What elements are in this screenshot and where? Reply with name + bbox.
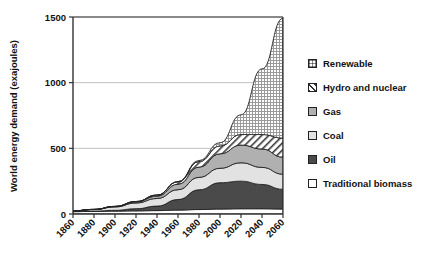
chart-legend: Renewable Hydro and nuclear Gas Coal Oil… xyxy=(308,56,434,200)
area-series-group xyxy=(73,18,283,214)
y-axis-title: World energy demand (exajoules) xyxy=(8,40,19,192)
x-tick-label: 2020 xyxy=(222,217,245,240)
x-axis-ticks: 1860188019001920194019601980200020202040… xyxy=(54,214,287,239)
legend-label-renewable: Renewable xyxy=(323,58,373,69)
legend-swatch-gas xyxy=(308,107,317,116)
x-tick-label: 1960 xyxy=(159,217,182,240)
legend-item-coal[interactable]: Coal xyxy=(308,128,434,142)
y-tick-label: 500 xyxy=(50,143,66,154)
legend-item-renewable[interactable]: Renewable xyxy=(308,56,434,70)
legend-label-hydro-and-nuclear: Hydro and nuclear xyxy=(323,82,406,93)
legend-swatch-oil xyxy=(308,155,317,164)
y-axis-ticks: 050010001500 xyxy=(45,12,73,220)
legend-item-gas[interactable]: Gas xyxy=(308,104,434,118)
x-tick-label: 1860 xyxy=(54,217,77,240)
x-tick-label: 1920 xyxy=(117,217,140,240)
legend-label-coal: Coal xyxy=(323,130,344,141)
legend-swatch-coal xyxy=(308,131,317,140)
legend-swatch-renewable xyxy=(308,59,317,68)
chart-figure: 050010001500 186018801900192019401960198… xyxy=(0,0,434,266)
x-tick-label: 2060 xyxy=(264,217,287,240)
legend-item-traditional-biomass[interactable]: Traditional biomass xyxy=(308,176,434,190)
x-tick-label: 1880 xyxy=(75,217,98,240)
x-tick-label: 1900 xyxy=(96,217,119,240)
legend-item-oil[interactable]: Oil xyxy=(308,152,434,166)
legend-swatch-hydro-and-nuclear xyxy=(308,83,317,92)
legend-label-traditional-biomass: Traditional biomass xyxy=(323,178,412,189)
legend-label-oil: Oil xyxy=(323,154,336,165)
legend-label-gas: Gas xyxy=(323,106,341,117)
legend-swatch-traditional-biomass xyxy=(308,179,317,188)
y-tick-label: 1500 xyxy=(45,12,66,23)
legend-item-hydro-and-nuclear[interactable]: Hydro and nuclear xyxy=(308,80,434,94)
x-tick-label: 1940 xyxy=(138,217,161,240)
x-tick-label: 2000 xyxy=(201,217,224,240)
y-tick-label: 0 xyxy=(61,209,66,220)
y-tick-label: 1000 xyxy=(45,77,66,88)
x-tick-label: 1980 xyxy=(180,217,203,240)
x-tick-label: 2040 xyxy=(243,217,266,240)
